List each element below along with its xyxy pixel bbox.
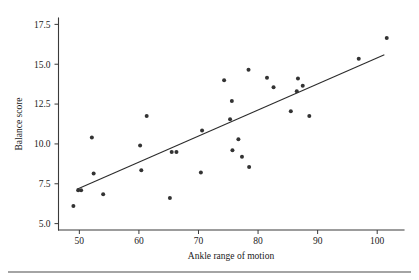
data-point [289, 109, 293, 113]
x-tick-label: 100 [370, 236, 385, 246]
data-point [200, 128, 204, 132]
y-tick-label: 12.5 [34, 99, 51, 109]
y-tick-label: 17.5 [34, 20, 51, 30]
data-point [168, 196, 172, 200]
data-point [222, 78, 226, 82]
data-point [139, 168, 143, 172]
data-point [247, 68, 251, 72]
data-point [174, 150, 178, 154]
data-point [138, 144, 142, 148]
x-axis-title: Ankle range of motion [188, 251, 275, 261]
data-point [230, 99, 234, 103]
x-tick-label: 50 [75, 236, 85, 246]
data-point [145, 114, 149, 118]
plot-canvas: 5.07.510.012.515.017.5 5060708090100 Ank… [0, 0, 419, 280]
data-point [79, 188, 83, 192]
data-point [357, 57, 361, 61]
data-point [240, 155, 244, 159]
y-tick-label: 7.5 [39, 179, 51, 189]
scatter-plot-figure: 5.07.510.012.515.017.5 5060708090100 Ank… [0, 0, 419, 280]
data-point [272, 85, 276, 89]
x-axis-ticks: 5060708090100 [75, 230, 385, 246]
data-point [296, 77, 300, 81]
y-axis-title: Balance score [14, 97, 24, 150]
data-point [170, 150, 174, 154]
y-axis-ticks: 5.07.510.012.515.017.5 [34, 20, 59, 229]
data-point [265, 76, 269, 80]
data-point [307, 114, 311, 118]
regression-line [77, 55, 384, 190]
x-tick-label: 90 [313, 236, 323, 246]
data-point [199, 171, 203, 175]
x-tick-label: 60 [134, 236, 144, 246]
data-point [385, 36, 389, 40]
x-tick-label: 70 [194, 236, 204, 246]
y-tick-label: 15.0 [34, 60, 51, 70]
y-tick-label: 5.0 [39, 219, 51, 229]
data-point [101, 192, 105, 196]
data-point [71, 204, 75, 208]
axes-group [59, 18, 405, 230]
data-point [90, 136, 94, 140]
data-point [301, 84, 305, 88]
data-point [236, 137, 240, 141]
data-point [92, 171, 96, 175]
data-point [228, 117, 232, 121]
y-tick-label: 10.0 [34, 139, 51, 149]
x-tick-label: 80 [253, 236, 263, 246]
data-point [230, 148, 234, 152]
data-point [295, 89, 299, 93]
data-point [247, 165, 251, 169]
